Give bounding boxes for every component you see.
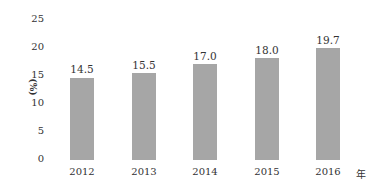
value-label-2012: 14.5 [62,64,102,75]
y-tick-5: 5 [22,126,44,136]
y-axis-label: (%) [28,78,38,95]
x-axis-unit: 年 [356,166,366,181]
y-tick-20: 20 [22,42,44,52]
bar-2015 [255,58,279,160]
value-label-2014: 17.0 [185,51,225,62]
x-tick-2016: 2016 [308,167,348,177]
bar-2016 [316,48,340,160]
x-tick-2015: 2015 [247,167,287,177]
x-tick-2014: 2014 [185,167,225,177]
y-tick-0: 0 [22,154,44,164]
value-label-2013: 15.5 [124,60,164,71]
value-label-2015: 18.0 [247,45,287,56]
y-tick-25: 25 [22,14,44,24]
x-tick-2013: 2013 [124,167,164,177]
value-label-2016: 19.7 [308,35,348,46]
bar-2012 [70,78,94,160]
bar-2014 [193,64,217,160]
x-tick-2012: 2012 [62,167,102,177]
bar-2013 [132,73,156,160]
y-tick-10: 10 [22,98,44,108]
bar-chart: 25 20 15 10 5 0 (%) 14.5 15.5 17.0 18.0 … [0,0,376,182]
